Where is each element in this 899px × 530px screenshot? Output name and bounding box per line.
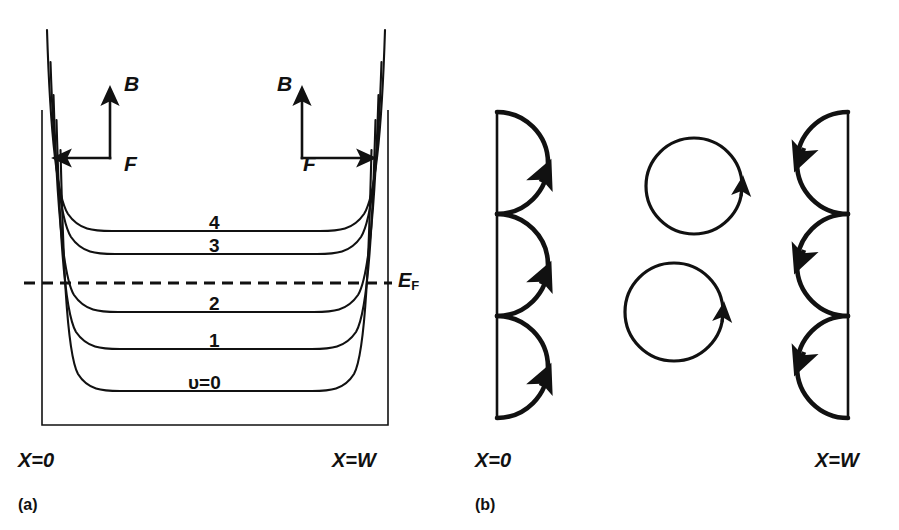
bulk-cyclotron-orbits (625, 138, 742, 361)
annotation-right-B-F (302, 96, 366, 158)
skipping-arc-right-3 (797, 316, 848, 418)
landau-label-1: 1 (209, 330, 220, 352)
panel-b-caption: (b) (475, 496, 495, 514)
force-label-left: F (124, 152, 137, 176)
annotation-left-B-F (62, 96, 110, 158)
cyclotron-orbit-upper (646, 138, 742, 234)
skipping-arc-left-3 (497, 316, 548, 418)
skipping-arc-right-2 (797, 214, 848, 316)
panel-b-group (497, 112, 848, 418)
force-label-right: F (303, 152, 316, 176)
left-skipping-orbits (497, 112, 548, 418)
figure-root: 4 3 2 1 υ=0 EF B F B F X=0 X=W (a) X=0 X… (0, 0, 899, 530)
skipping-arc-left-1 (497, 112, 548, 214)
landau-curve-0 (61, 150, 372, 391)
panel-b-x-w-label: X=W (815, 449, 859, 472)
landau-label-4: 4 (209, 212, 220, 234)
magnetic-field-label-left: B (124, 72, 139, 96)
panel-a-caption: (a) (18, 496, 38, 514)
landau-curve-4 (47, 30, 385, 231)
landau-label-0: υ=0 (188, 372, 221, 394)
landau-label-2: 2 (209, 293, 220, 315)
right-skipping-orbits (797, 112, 848, 418)
panel-b-x-zero-label: X=0 (475, 449, 511, 472)
landau-label-3: 3 (209, 235, 220, 257)
panel-a-x-w-label: X=W (332, 449, 376, 472)
fermi-level-symbol: E (398, 269, 411, 291)
skipping-arc-right-1 (797, 112, 848, 214)
fermi-level-subscript: F (411, 278, 419, 293)
panel-a-group (24, 30, 392, 425)
magnetic-field-label-right: B (277, 72, 292, 96)
cyclotron-orbit-lower (625, 263, 723, 361)
fermi-level-label: EF (398, 269, 419, 293)
landau-curve-2 (54, 95, 379, 312)
skipping-arc-left-2 (497, 214, 548, 316)
panel-a-x-zero-label: X=0 (18, 449, 54, 472)
